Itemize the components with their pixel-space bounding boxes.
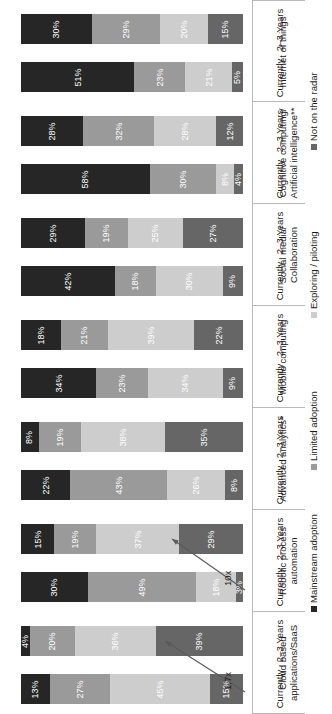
stacked-bar-chart: 30%29%20%15%51%23%21%5%28%32%28%12%58%30… [0, 0, 332, 714]
callout-label: 1.7x [222, 672, 233, 690]
callout-arrow [0, 0, 332, 714]
